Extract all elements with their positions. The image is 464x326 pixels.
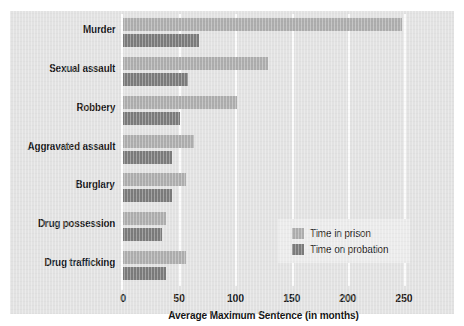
x-tick-150: 150 — [283, 292, 300, 304]
legend-swatch-prison — [292, 228, 304, 239]
bar-prison-drug-possession — [123, 212, 166, 225]
bar-group-murder: Murder — [123, 14, 404, 53]
bar-probation-burglary — [123, 189, 172, 202]
x-tick-200: 200 — [339, 292, 356, 304]
legend-item-time-on-probation: Time on probation — [292, 241, 410, 257]
bar-probation-sexual-assault — [123, 73, 188, 86]
chart-screenshot: Murder Sexual assault Robbery Aggravated… — [0, 0, 464, 326]
x-tick-0: 0 — [120, 292, 126, 304]
legend-item-time-in-prison: Time in prison — [292, 225, 410, 241]
chart-legend: Time in prison Time on probation — [278, 219, 410, 263]
chart-panel: Murder Sexual assault Robbery Aggravated… — [10, 11, 454, 314]
category-label-drug-possession: Drug possession — [38, 217, 115, 229]
bar-probation-drug-possession — [123, 228, 162, 241]
bar-group-aggravated-assault: Aggravated assault — [123, 131, 404, 170]
bar-group-robbery: Robbery — [123, 92, 404, 131]
bar-probation-drug-trafficking — [123, 267, 166, 280]
x-tick-50: 50 — [174, 292, 185, 304]
bar-prison-robbery — [123, 96, 237, 109]
bar-probation-aggravated-assault — [123, 151, 172, 164]
category-label-robbery: Robbery — [76, 101, 115, 113]
bar-probation-murder — [123, 34, 199, 47]
legend-label-prison: Time in prison — [310, 228, 371, 239]
bar-prison-sexual-assault — [123, 57, 268, 70]
category-label-aggravated-assault: Aggravated assault — [27, 140, 115, 152]
category-label-murder: Murder — [83, 23, 115, 35]
bar-prison-drug-trafficking — [123, 251, 186, 264]
bar-probation-robbery — [123, 112, 180, 125]
x-axis-title: Average Maximum Sentence (in months) — [129, 309, 399, 321]
legend-label-probation: Time on probation — [310, 244, 389, 255]
bar-prison-aggravated-assault — [123, 135, 194, 148]
x-tick-100: 100 — [227, 292, 244, 304]
bar-group-sexual-assault: Sexual assault — [123, 53, 404, 92]
bar-prison-burglary — [123, 173, 186, 186]
x-tick-250: 250 — [396, 292, 413, 304]
legend-swatch-probation — [292, 244, 304, 255]
bar-prison-murder — [123, 18, 402, 31]
category-label-burglary: Burglary — [76, 178, 115, 190]
bar-group-burglary: Burglary — [123, 169, 404, 208]
category-label-sexual-assault: Sexual assault — [49, 62, 115, 74]
category-label-drug-trafficking: Drug trafficking — [45, 256, 115, 268]
